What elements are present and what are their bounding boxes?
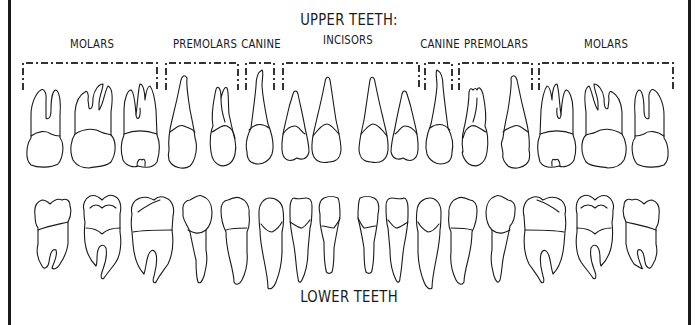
- upper-molar-1-right: [121, 84, 159, 167]
- upper-molar-2-left: [582, 84, 626, 168]
- lower-molar-3-right: [35, 199, 71, 269]
- dental-chart-art: [0, 0, 698, 325]
- group-brackets: [23, 63, 673, 90]
- bracket-upper-right-canine: [246, 63, 274, 90]
- upper-premolar-1-left: [462, 88, 488, 166]
- lower-canine-left: [416, 198, 441, 289]
- upper-molar-2-right: [71, 84, 115, 168]
- lower-molar-1-left: [523, 197, 565, 283]
- lower-premolar-1-right: [221, 197, 249, 284]
- upper-canine-right: [246, 70, 273, 164]
- lower-premolar-2-left: [486, 195, 515, 282]
- bracket-upper-right-molars: [23, 63, 157, 90]
- lower-premolar-2-right: [183, 195, 212, 282]
- lower-incisor-lateral-right: [290, 198, 312, 282]
- upper-incisor-lateral-right: [282, 91, 309, 160]
- upper-premolar-2-left: [501, 76, 529, 168]
- upper-premolar-1-right: [210, 87, 236, 166]
- lower-molar-2-left: [576, 195, 613, 279]
- upper-incisor-central-left: [359, 77, 388, 162]
- lower-premolar-1-left: [449, 197, 477, 284]
- lower-incisor-central-left: [358, 197, 379, 274]
- upper-molar-3-right: [27, 89, 63, 167]
- lower-molar-2-right: [83, 195, 120, 279]
- upper-molar-3-left: [632, 89, 668, 167]
- bracket-upper-left-premolars: [459, 63, 532, 90]
- bracket-upper-right-premolars: [166, 63, 238, 90]
- upper-incisor-lateral-left: [391, 91, 418, 160]
- upper-canine-left: [426, 70, 453, 164]
- upper-incisor-central-right: [312, 77, 341, 162]
- lower-incisor-lateral-left: [386, 198, 408, 282]
- lower-incisor-central-right: [319, 197, 340, 274]
- lower-canine-right: [259, 198, 284, 289]
- bracket-upper-incisors: [283, 63, 419, 90]
- upper-molar-1-left: [538, 84, 576, 167]
- lower-molar-3-left: [623, 199, 659, 269]
- bracket-upper-left-canine: [425, 63, 452, 90]
- bracket-upper-left-molars: [539, 63, 673, 90]
- lower-molar-1-right: [131, 197, 173, 283]
- upper-premolar-2-right: [168, 76, 196, 168]
